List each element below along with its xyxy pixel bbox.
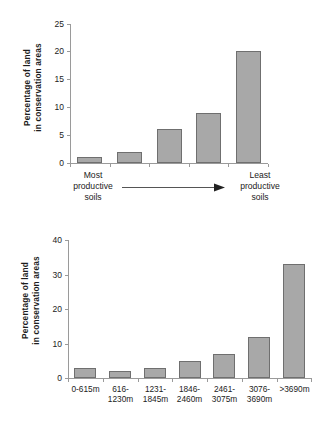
annotation-most-line3: soils [84, 192, 101, 202]
x-category-5-line2: 3075m [212, 394, 237, 404]
x-category-label-7: >3690m [271, 385, 318, 395]
x-axis-line-bottom [68, 378, 312, 379]
x-tick-boundary-0 [68, 379, 69, 382]
bar-bottom-3 [144, 368, 166, 378]
annotation-least-line3: soils [251, 192, 268, 202]
x-tick-boundary-1 [103, 379, 104, 382]
y-tick-label-40: 40 [40, 236, 62, 245]
arrow-right-icon [122, 182, 227, 193]
bar-bottom-7 [283, 264, 305, 378]
y-tick-30 [65, 275, 68, 276]
y-tick-label-0: 0 [42, 159, 64, 168]
annotation-least-line2: productive [240, 181, 280, 191]
x-tick-boundary-2 [149, 164, 150, 167]
chart-top-soil-productivity: Percentage of land in conservation areas… [0, 0, 322, 215]
x-category-3-line2: 1845m [143, 394, 168, 404]
annotation-least-productive: Least productive soils [228, 170, 292, 203]
y-tick-label-10: 10 [42, 103, 64, 112]
y-tick-10 [65, 344, 68, 345]
bar-top-3 [157, 129, 182, 163]
annotation-most-line2: productive [73, 181, 113, 191]
x-category-3-line1: 1231- [145, 384, 166, 394]
x-tick-boundary-5 [242, 379, 243, 382]
x-tick-boundary-3 [172, 379, 173, 382]
y-tick-label-20: 20 [40, 305, 62, 314]
y-tick-40 [65, 240, 68, 241]
y-tick-label-15: 15 [42, 75, 64, 84]
x-category-5-line1: 2461- [214, 384, 235, 394]
x-tick-boundary-0 [70, 164, 71, 167]
x-category-6-line2: 3690m [247, 394, 272, 404]
bar-bottom-5 [213, 354, 235, 378]
x-tick-boundary-5 [268, 164, 269, 167]
x-tick-boundary-3 [189, 164, 190, 167]
annotation-most-line1: Most [84, 170, 103, 180]
x-tick-boundary-6 [277, 379, 278, 382]
x-category-6-line1: 3076- [249, 384, 270, 394]
y-axis-line-bottom [68, 240, 69, 379]
x-tick-boundary-4 [207, 379, 208, 382]
y-tick-label-20: 20 [42, 47, 64, 56]
x-category-4-line2: 2460m [177, 394, 202, 404]
bar-bottom-6 [248, 337, 270, 378]
x-category-2-line2: 1230m [108, 394, 133, 404]
y-axis-line-top [70, 24, 71, 164]
y-tick-10 [67, 107, 70, 108]
y-tick-20 [67, 51, 70, 52]
bar-bottom-1 [74, 368, 96, 378]
y-tick-25 [67, 24, 70, 25]
y-tick-label-5: 5 [42, 131, 64, 140]
bar-top-5 [236, 51, 261, 163]
x-tick-boundary-1 [110, 164, 111, 167]
y-tick-label-25: 25 [42, 20, 64, 29]
x-tick-boundary-7 [311, 379, 312, 382]
plot-area-bottom: 0 10 20 30 40 0-615m 616- 1230m [0, 215, 322, 431]
x-axis-line-top [70, 163, 268, 164]
bar-top-4 [196, 113, 221, 163]
x-category-1-line1: 0-615m [71, 384, 99, 394]
y-tick-label-10: 10 [40, 340, 62, 349]
x-tick-boundary-2 [138, 379, 139, 382]
bar-top-1 [77, 157, 102, 163]
x-category-2-line1: 616- [112, 384, 129, 394]
y-tick-label-30: 30 [40, 271, 62, 280]
y-tick-20 [65, 309, 68, 310]
y-tick-5 [67, 135, 70, 136]
bar-top-2 [117, 152, 142, 163]
y-tick-15 [67, 79, 70, 80]
annotation-most-productive: Most productive soils [62, 170, 124, 203]
bar-bottom-4 [179, 361, 201, 378]
chart-bottom-elevation-bands: Percentage of land in conservation areas… [0, 215, 322, 431]
x-tick-boundary-4 [228, 164, 229, 167]
x-category-7-line1: >3690m [279, 384, 309, 394]
bar-bottom-2 [109, 371, 131, 378]
annotation-least-line1: Least [249, 170, 270, 180]
x-category-4-line1: 1846- [179, 384, 200, 394]
y-tick-label-0: 0 [40, 374, 62, 383]
